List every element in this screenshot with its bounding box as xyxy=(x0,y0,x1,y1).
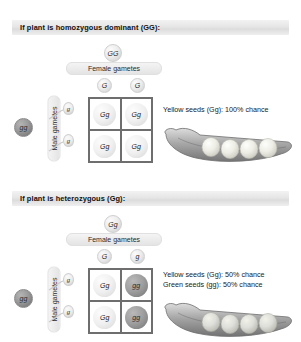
sperm-tail-icon xyxy=(48,108,64,120)
female-gametes-label: Female gametes xyxy=(66,62,162,75)
female-gamete-2: g xyxy=(130,249,145,264)
punnett-cell-r2c2: Gg xyxy=(121,130,153,162)
male-gamete-1: g xyxy=(60,102,74,117)
pea-pod-icon xyxy=(160,120,298,166)
male-gamete-2-allele: g xyxy=(63,305,74,318)
male-parent-genotype: gg xyxy=(14,118,33,137)
female-gamete-1: G xyxy=(97,78,112,93)
punnett-cell-r2c2-genotype: gg xyxy=(125,306,148,329)
punnett-cell-r1c1: Gg xyxy=(89,269,121,301)
panel-homozygous-dominant: If plant is homozygous dominant (GG): GG… xyxy=(0,0,301,171)
result-line-2: Green seeds (gg): 50% chance xyxy=(163,280,263,290)
sperm-tail-icon xyxy=(48,140,64,152)
punnett-cell-r1c2: Gg xyxy=(121,98,153,130)
punnett-cell-r2c1-genotype: Gg xyxy=(93,135,116,158)
female-parent-genotype: Gg xyxy=(104,215,122,233)
punnett-cell-r1c2: gg xyxy=(121,269,153,301)
female-gametes-label: Female gametes xyxy=(66,233,162,246)
panel-header-text: If plant is homozygous dominant (GG): xyxy=(20,21,290,34)
pea-pod-illustration xyxy=(160,120,298,166)
punnett-cell-r1c2-genotype: Gg xyxy=(125,103,148,126)
male-gamete-1-allele: g xyxy=(63,102,74,115)
result-line-1: Yellow seeds (Gg): 50% chance xyxy=(163,270,265,280)
male-gamete-1-allele: g xyxy=(63,273,74,286)
punnett-cell-r1c2-genotype: gg xyxy=(125,274,148,297)
female-gamete-1: G xyxy=(97,249,112,264)
male-gamete-2: g xyxy=(60,305,74,320)
punnett-cell-r2c1-genotype: Gg xyxy=(93,306,116,329)
result-line-1: Yellow seeds (Gg): 100% chance xyxy=(163,105,269,115)
punnett-cell-r1c1-genotype: Gg xyxy=(93,103,116,126)
sperm-tail-icon xyxy=(48,279,64,291)
male-parent-genotype: gg xyxy=(14,289,33,308)
pea-pod-illustration xyxy=(160,295,298,341)
male-gamete-2: g xyxy=(60,134,74,149)
punnett-cell-r1c1-genotype: Gg xyxy=(93,274,116,297)
punnett-square: Gg Gg Gg Gg xyxy=(88,97,153,163)
punnett-cell-r1c1: Gg xyxy=(89,98,121,130)
pea-pod-icon xyxy=(160,295,298,341)
male-gamete-2-allele: g xyxy=(63,134,74,147)
punnett-cell-r2c1: Gg xyxy=(89,130,121,162)
female-gamete-2: G xyxy=(130,78,145,93)
punnett-cell-r2c1: Gg xyxy=(89,301,121,333)
punnett-cell-r2c2: gg xyxy=(121,301,153,333)
punnett-cell-r2c2-genotype: Gg xyxy=(125,135,148,158)
male-gamete-1: g xyxy=(60,273,74,288)
panel-heterozygous: If plant is heterozygous (Gg): Gg Female… xyxy=(0,171,301,342)
female-parent-genotype: GG xyxy=(104,44,122,62)
punnett-square: Gg gg Gg gg xyxy=(88,268,153,334)
sperm-tail-icon xyxy=(48,311,64,323)
panel-header-text: If plant is heterozygous (Gg): xyxy=(20,192,290,205)
